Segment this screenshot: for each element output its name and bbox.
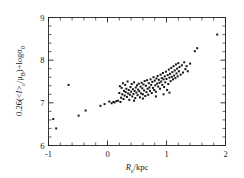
data-point xyxy=(187,70,189,72)
data-point xyxy=(144,95,146,97)
data-point xyxy=(120,97,122,99)
data-point xyxy=(154,84,156,86)
data-point xyxy=(153,76,155,78)
data-point xyxy=(141,87,143,89)
data-point xyxy=(171,71,173,73)
data-point xyxy=(117,100,119,102)
data-point xyxy=(163,86,165,88)
data-point xyxy=(194,50,196,52)
data-point xyxy=(161,77,163,79)
data-point xyxy=(55,127,57,129)
data-point xyxy=(148,82,150,84)
data-point xyxy=(119,101,121,103)
data-point xyxy=(163,78,165,80)
x-tick-label: 1 xyxy=(164,149,168,159)
data-point xyxy=(138,83,140,85)
y-tick-label: 6 xyxy=(40,141,44,151)
data-point xyxy=(168,69,170,71)
x-tick-label: -1 xyxy=(45,149,52,159)
data-point xyxy=(126,96,128,98)
data-point xyxy=(168,77,170,79)
data-point xyxy=(52,118,54,120)
data-point xyxy=(153,89,155,91)
data-point xyxy=(147,94,149,96)
data-point xyxy=(175,63,177,65)
data-point xyxy=(123,90,125,92)
x-tick-label: 0 xyxy=(105,149,109,159)
data-point xyxy=(122,98,124,100)
data-point xyxy=(140,92,142,94)
scatter-plot-figure: -1012 6789 Re/kpc 0.26(<I>e/μB)+logσ0 xyxy=(0,0,244,178)
data-point xyxy=(176,72,178,74)
y-tick-label: 9 xyxy=(40,13,44,23)
data-point xyxy=(171,76,173,78)
data-point xyxy=(148,86,150,88)
data-point xyxy=(157,75,159,77)
data-point xyxy=(170,80,172,82)
data-point xyxy=(150,84,152,86)
data-point xyxy=(142,93,144,95)
data-point xyxy=(159,88,161,90)
data-point xyxy=(119,85,121,87)
data-point xyxy=(139,96,141,98)
data-point xyxy=(146,79,148,81)
data-point xyxy=(128,99,130,101)
data-point xyxy=(156,83,158,85)
data-point xyxy=(166,89,168,91)
data-point xyxy=(145,91,147,93)
data-point xyxy=(184,68,186,70)
data-point xyxy=(121,93,123,95)
data-point xyxy=(140,86,142,88)
data-point xyxy=(122,82,124,84)
data-point xyxy=(125,91,127,93)
data-point xyxy=(183,61,185,63)
data-point xyxy=(136,84,138,86)
data-point xyxy=(127,81,129,83)
data-point xyxy=(78,115,80,117)
data-point xyxy=(124,95,126,97)
data-point xyxy=(125,88,127,90)
data-point xyxy=(186,65,188,67)
data-point xyxy=(115,100,117,102)
data-point xyxy=(142,98,144,100)
data-point xyxy=(177,75,179,77)
data-point xyxy=(124,84,126,86)
data-point xyxy=(172,78,174,80)
data-point xyxy=(162,72,164,74)
data-point xyxy=(181,64,183,66)
data-point xyxy=(173,65,175,67)
data-point xyxy=(216,34,218,36)
data-point xyxy=(150,78,152,80)
data-point xyxy=(180,74,182,76)
data-point xyxy=(68,84,70,86)
data-point xyxy=(155,91,157,93)
data-point xyxy=(167,83,169,85)
data-point xyxy=(142,83,144,85)
data-point xyxy=(132,88,134,90)
figure-background xyxy=(0,0,244,178)
data-point xyxy=(131,83,133,85)
data-point xyxy=(129,94,131,96)
data-point xyxy=(104,103,106,105)
data-point xyxy=(165,71,167,73)
data-point xyxy=(133,81,135,83)
data-point xyxy=(85,110,87,112)
data-point xyxy=(161,84,163,86)
data-point xyxy=(143,89,145,91)
data-point xyxy=(99,105,101,107)
data-point xyxy=(168,92,170,94)
data-point xyxy=(114,101,116,103)
data-point xyxy=(176,68,178,70)
data-point xyxy=(160,74,162,76)
y-tick-label: 7 xyxy=(40,98,44,108)
data-point xyxy=(147,88,149,90)
data-point xyxy=(135,92,137,94)
data-point xyxy=(196,47,198,49)
data-point xyxy=(160,81,162,83)
data-point xyxy=(170,67,172,69)
data-point xyxy=(151,81,153,83)
plot-canvas: -1012 6789 Re/kpc 0.26(<I>e/μB)+logσ0 xyxy=(0,0,244,178)
data-point xyxy=(128,89,130,91)
data-point xyxy=(158,79,160,81)
data-point xyxy=(133,100,135,102)
